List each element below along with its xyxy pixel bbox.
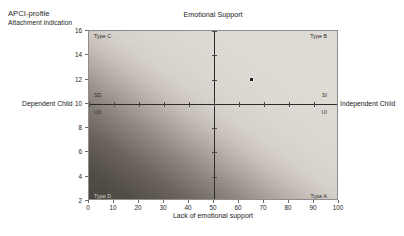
y-axis-label: 12: [64, 75, 82, 82]
y-axis-tick: [85, 54, 88, 55]
quadrant-label-type-b: Type B: [310, 33, 327, 39]
x-axis-label: 80: [278, 204, 298, 211]
x-axis-tick: [213, 200, 214, 203]
x-axis-label: 20: [128, 204, 148, 211]
x-axis-label: 50: [203, 204, 223, 211]
chart-title: Emotional Support: [88, 10, 338, 19]
quadrant-label-type-a: Type A: [311, 193, 327, 199]
x-axis-title: Lack of emotional support: [88, 212, 338, 219]
y-axis-tick: [85, 30, 88, 31]
zone-label-sd: SD: [94, 92, 101, 98]
y-axis-tick: [85, 127, 88, 128]
x-axis-tick: [113, 200, 114, 203]
chart-canvas: APCI-profile Attachment indication Emoti…: [0, 0, 404, 236]
profile-header: APCI-profile Attachment indication: [8, 9, 72, 28]
y-axis-label: 2: [64, 197, 82, 204]
side-label-right: Independent Child: [340, 99, 395, 106]
inner-tick: [264, 102, 265, 107]
x-axis-tick: [88, 200, 89, 203]
zone-label-ud: UD: [94, 109, 102, 115]
inner-tick: [212, 55, 217, 56]
inner-tick: [314, 102, 315, 107]
x-axis-tick: [288, 200, 289, 203]
x-axis-label: 30: [153, 204, 173, 211]
inner-tick: [212, 177, 217, 178]
inner-tick: [189, 102, 190, 107]
y-axis-tick: [85, 151, 88, 152]
x-axis-label: 70: [253, 204, 273, 211]
reference-line-horizontal: [89, 104, 337, 105]
side-label-left: Dependent Child: [22, 99, 73, 106]
inner-tick: [212, 152, 217, 153]
zone-label-ui: UI: [322, 109, 327, 115]
x-axis-tick: [263, 200, 264, 203]
inner-tick: [164, 102, 165, 107]
inner-tick: [289, 102, 290, 107]
y-axis-tick: [85, 103, 88, 104]
x-axis-label: 90: [303, 204, 323, 211]
inner-tick: [212, 31, 217, 32]
x-axis-label: 100: [328, 204, 348, 211]
x-axis-tick: [238, 200, 239, 203]
data-point[interactable]: [249, 77, 254, 82]
profile-title: APCI-profile: [8, 9, 72, 19]
x-axis-tick: [138, 200, 139, 203]
quadrant-label-type-c: Type C: [94, 33, 111, 39]
y-axis-label: 6: [64, 148, 82, 155]
y-axis-label: 8: [64, 124, 82, 131]
quadrant-label-type-d: Type D: [94, 193, 111, 199]
inner-tick: [212, 80, 217, 81]
x-axis-tick: [188, 200, 189, 203]
y-axis-label: 16: [64, 27, 82, 34]
x-axis-tick: [163, 200, 164, 203]
reference-line-vertical: [214, 31, 215, 199]
x-axis-label: 60: [228, 204, 248, 211]
inner-tick: [89, 102, 90, 107]
inner-tick: [239, 102, 240, 107]
y-axis-label: 4: [64, 172, 82, 179]
x-axis-label: 0: [78, 204, 98, 211]
y-axis-label: 14: [64, 51, 82, 58]
profile-subtitle: Attachment indication: [8, 19, 72, 28]
x-axis-label: 10: [103, 204, 123, 211]
inner-tick: [114, 102, 115, 107]
x-axis-tick: [313, 200, 314, 203]
inner-tick: [214, 102, 215, 107]
y-axis-tick: [85, 176, 88, 177]
plot-area: Type CType BType DType ASDUDSIUI: [88, 30, 338, 200]
zone-label-si: SI: [322, 92, 327, 98]
x-axis-label: 40: [178, 204, 198, 211]
inner-tick: [212, 128, 217, 129]
x-axis-tick: [338, 200, 339, 203]
y-axis-tick: [85, 79, 88, 80]
inner-tick: [139, 102, 140, 107]
